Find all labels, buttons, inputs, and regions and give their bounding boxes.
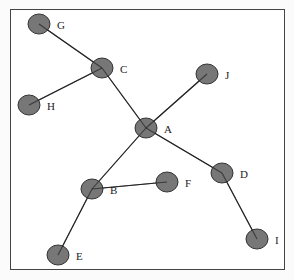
node-label: E — [76, 250, 83, 262]
node-label: H — [47, 100, 55, 112]
node-d: D — [211, 163, 248, 183]
node-label: I — [275, 234, 279, 246]
edge-overlay — [102, 68, 146, 128]
node-label: D — [240, 168, 248, 180]
node-c: C — [91, 58, 127, 78]
graph-canvas: GCHJADFBEI — [0, 0, 294, 280]
node-label: B — [110, 184, 117, 196]
node-j: J — [196, 64, 230, 84]
edge-overlay — [58, 189, 92, 255]
nodes-layer: GCHJADFBEI — [18, 14, 279, 265]
node-label: F — [185, 177, 191, 189]
edge-overlay — [92, 128, 146, 189]
node-h: H — [18, 95, 55, 115]
node-label: J — [225, 69, 230, 81]
node-b: B — [81, 179, 117, 199]
edge-overlay — [146, 74, 207, 128]
edges-layer — [29, 24, 257, 255]
edge-overlay — [39, 24, 102, 68]
node-label: C — [120, 63, 127, 75]
edge-overlay — [92, 182, 167, 189]
node-e: E — [47, 245, 83, 265]
edge-overlay — [222, 173, 257, 239]
node-label: G — [57, 19, 65, 31]
edge-overlay — [146, 128, 222, 173]
node-g: G — [28, 14, 65, 34]
edge-overlay — [29, 68, 102, 105]
node-label: A — [164, 123, 172, 135]
node-i: I — [246, 229, 279, 249]
